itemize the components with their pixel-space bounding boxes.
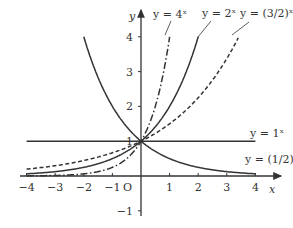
- leader-line: [198, 21, 211, 37]
- x-tick-label: −4: [18, 181, 34, 194]
- y-tick-label: 4: [126, 31, 133, 44]
- x-tick-label: −1: [104, 181, 120, 194]
- labels: −4−3−2−11234−11234Oxyy = 4ˣy = 2ˣy = (3/…: [18, 7, 293, 218]
- series-label: y = 1ˣ: [249, 127, 284, 140]
- x-tick-label: −2: [76, 181, 92, 194]
- y-axis-label: y: [128, 10, 136, 23]
- y-tick-label: 2: [126, 100, 133, 113]
- y-tick-label: 3: [126, 66, 133, 79]
- series-label: y = (1/2)ˣ: [244, 153, 293, 166]
- series-label: y = 4ˣ: [152, 8, 187, 21]
- x-axis-label: x: [269, 183, 276, 196]
- exponential-functions-chart: −4−3−2−11234−11234Oxyy = 4ˣy = 2ˣy = (3/…: [0, 0, 293, 228]
- x-tick-label: −3: [47, 181, 63, 194]
- leader-line: [165, 21, 171, 35]
- x-tick-label: 4: [252, 181, 259, 194]
- x-tick-label: 2: [195, 181, 202, 194]
- series-label: y = 2ˣ: [201, 7, 236, 20]
- series-label: y = (3/2)ˣ: [239, 7, 293, 20]
- y-tick-label: 1: [126, 135, 133, 148]
- x-tick-label: 1: [166, 181, 173, 194]
- curve-y-4-x: [27, 37, 170, 176]
- y-tick-label: −1: [117, 205, 133, 218]
- origin-label: O: [123, 181, 132, 194]
- leader-line: [232, 22, 249, 35]
- x-tick-label: 3: [223, 181, 230, 194]
